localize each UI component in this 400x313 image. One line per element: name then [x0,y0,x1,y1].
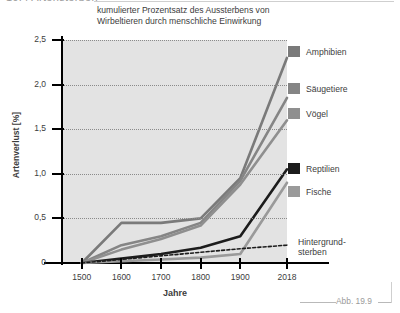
y-tick-label: 1,5 [12,123,46,133]
x-tick-label: 1700 [141,272,181,282]
legend-item-voegel[interactable]: Vögel [288,108,328,119]
y-tick [52,173,64,175]
x-tick [286,258,288,269]
figure-caption: Abb. 19.9 [336,296,372,306]
gridline-y [62,218,287,219]
x-tick-label: 1500 [62,272,102,282]
y-tick-label: 2,0 [12,79,46,89]
gridline-y [62,40,287,41]
gridline-y [62,129,287,130]
x-tick-label: 1800 [181,272,221,282]
caption-rule-right [378,302,392,303]
caption-rule-left [300,302,336,303]
x-tick [200,258,202,269]
legend-swatch-amphibien [288,46,300,57]
y-tick-label: 2,5 [12,34,46,44]
figure-page: 19.4 Artensterben kumulierter Prozentsat… [0,0,400,313]
legend-label-saeugetiere: Säugetiere [306,84,348,94]
legend-item-amphibien[interactable]: Amphibien [288,46,347,57]
y-tick [52,128,64,130]
legend-label-fische: Fische [306,187,331,197]
x-tick-label: 2018 [267,272,307,282]
x-tick [160,258,162,269]
x-tick [239,258,241,269]
legend-swatch-reptilien [288,163,300,174]
series-line-voegel [82,120,287,263]
series-line-saeugetiere [82,98,287,263]
legend-label-voegel: Vögel [306,109,328,119]
gridline-y [62,174,287,175]
annotation-line-2: sterben [298,248,388,258]
y-tick-label: 0,5 [12,212,46,222]
x-tick [81,258,83,269]
y-tick [52,262,64,264]
caption-rule-vertical [391,282,392,303]
gridline-y [62,85,287,86]
legend-label-amphibien: Amphibien [306,47,347,57]
y-tick-label: 0 [12,257,46,267]
legend-swatch-fische [288,186,300,197]
y-tick-label: 1,0 [12,168,46,178]
legend-swatch-voegel [288,108,300,119]
legend-label-reptilien: Reptilien [306,164,339,174]
legend-swatch-saeugetiere [288,83,300,94]
y-tick [52,84,64,86]
x-tick-label: 1900 [220,272,260,282]
x-tick-label: 1600 [101,272,141,282]
legend-item-saeugetiere[interactable]: Säugetiere [288,83,348,94]
legend-item-reptilien[interactable]: Reptilien [288,163,339,174]
x-tick [120,258,122,269]
y-tick [52,217,64,219]
legend-item-fische[interactable]: Fische [288,186,331,197]
y-tick [52,39,64,41]
annotation-hintergrundsterben: Hintergrund- sterben [298,238,388,257]
